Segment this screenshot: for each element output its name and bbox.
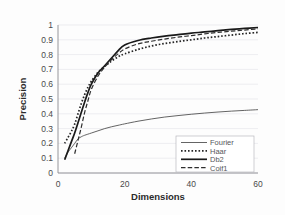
x-tick-label: 0 xyxy=(56,179,61,189)
y-tick-label: 0.8 xyxy=(41,50,53,60)
x-tick-label: 60 xyxy=(253,179,263,189)
chart-legend: FourierHaarDb2Coif1 xyxy=(176,136,254,173)
y-tick-label: 0.3 xyxy=(41,124,53,134)
y-tick-label: 0.7 xyxy=(41,64,53,74)
y-tick-label: 0.2 xyxy=(41,138,53,148)
y-tick-label: 0 xyxy=(48,168,53,178)
chart-canvas: 00.10.20.30.40.50.60.70.80.91 0204060 Pr… xyxy=(0,0,285,215)
y-tick-label: 0.4 xyxy=(41,109,53,119)
y-tick-label: 0.9 xyxy=(41,35,53,45)
x-tick-label: 20 xyxy=(120,179,130,189)
x-axis-title: Dimensions xyxy=(131,191,185,202)
series-line-coif1 xyxy=(75,29,258,154)
y-tick-labels-group: 00.10.20.30.40.50.60.70.80.91 xyxy=(41,20,53,178)
y-tick-label: 0.5 xyxy=(41,94,53,104)
series-line-haar xyxy=(65,32,258,143)
y-tick-label: 1 xyxy=(48,20,53,30)
x-tick-labels-group: 0204060 xyxy=(56,179,263,189)
x-tick-label: 40 xyxy=(187,179,197,189)
legend-label-coif1: Coif1 xyxy=(210,164,228,173)
precision-vs-dimensions-chart: 00.10.20.30.40.50.60.70.80.91 0204060 Pr… xyxy=(0,0,285,215)
y-tick-label: 0.6 xyxy=(41,79,53,89)
y-tick-label: 0.1 xyxy=(41,153,53,163)
y-axis-title: Precision xyxy=(17,77,28,120)
